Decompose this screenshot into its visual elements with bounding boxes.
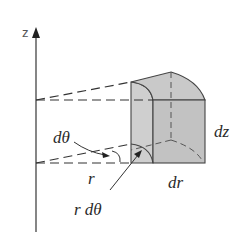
dr-label: dr	[168, 173, 184, 192]
cylindrical-volume-element-diagram: z dθ r r dθ dr dz	[0, 0, 246, 244]
dtheta-arrowhead-icon	[102, 152, 110, 158]
z-axis-label: z	[22, 25, 29, 40]
dtheta-label: dθ	[53, 128, 70, 147]
z-axis-arrowhead-icon	[32, 27, 40, 38]
dtheta-pointer	[74, 142, 110, 158]
wedge-front-face	[153, 100, 205, 163]
dz-label: dz	[214, 122, 230, 141]
r-dtheta-pointer	[110, 150, 142, 190]
z-axis: z	[22, 25, 40, 232]
r-dtheta-label: r dθ	[74, 200, 102, 219]
r-label: r	[88, 169, 95, 188]
dtheta-angle-arc	[112, 151, 120, 162]
wedge-inner-face	[131, 82, 153, 163]
